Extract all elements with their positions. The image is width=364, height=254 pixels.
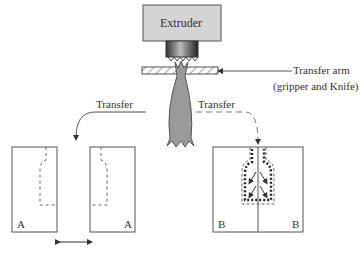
mold-a-left-label: A: [17, 219, 25, 230]
transfer-right-label: Transfer: [198, 99, 235, 110]
transfer-arm-label: Transfer arm: [293, 65, 350, 76]
mold-a-right-label: A: [124, 219, 132, 230]
transfer-arm: [142, 67, 292, 74]
extruder-label: Extruder: [160, 17, 202, 29]
transfer-left-arrow: [76, 112, 146, 138]
transfer-arm-sublabel: (gripper and Knife): [273, 81, 359, 92]
transfer-left-label: Transfer: [96, 99, 133, 110]
mold-b-left-label: B: [218, 219, 225, 230]
extruder: [143, 5, 221, 61]
transfer-right-arrow: [196, 112, 258, 142]
mold-b-right-label: B: [292, 219, 299, 230]
mold-b-closed: [213, 147, 303, 232]
diagram-graphics: [0, 0, 364, 254]
blow-molding-diagram: Extruder Transfer arm (gripper and Knife…: [0, 0, 364, 254]
